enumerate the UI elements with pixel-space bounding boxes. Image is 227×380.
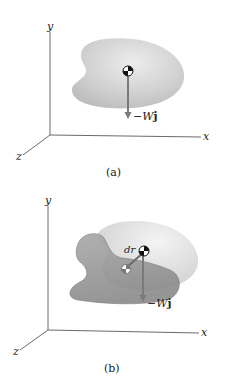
caption-a: (a) bbox=[106, 166, 121, 179]
x-axis-label: x bbox=[201, 326, 208, 339]
figure-canvas: y x z −Wj (a) y x z bbox=[0, 0, 227, 380]
y-axis-label: y bbox=[46, 20, 54, 33]
y-axis-label: y bbox=[44, 194, 52, 207]
x-axis-label: x bbox=[203, 130, 210, 143]
weight-label-b: −Wj bbox=[147, 297, 172, 310]
center-of-gravity-icon bbox=[139, 246, 149, 256]
figure-a: y x z −Wj (a) bbox=[15, 20, 210, 179]
caption-b: (b) bbox=[104, 362, 120, 375]
center-of-gravity-displaced-icon bbox=[122, 265, 131, 274]
x-axis bbox=[50, 135, 201, 137]
center-of-gravity-icon bbox=[123, 66, 133, 76]
z-axis bbox=[23, 135, 50, 155]
z-axis-label: z bbox=[12, 345, 19, 358]
x-axis bbox=[48, 330, 199, 333]
figure-b: y x z dr −Wj (b) bbox=[12, 194, 208, 375]
z-axis-label: z bbox=[15, 150, 22, 163]
weight-label-a: −Wj bbox=[133, 110, 158, 123]
z-axis bbox=[20, 330, 48, 350]
displacement-label: dr bbox=[124, 244, 136, 255]
